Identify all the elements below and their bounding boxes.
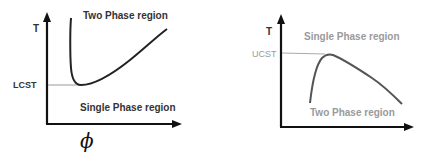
lcst-lower-region-label: Single Phase region	[80, 103, 176, 113]
ucst-upper-region-label: Single Phase region	[304, 32, 400, 42]
ucst-curve	[310, 54, 402, 104]
ucst-y-axis-label: T	[266, 27, 272, 37]
ucst-critical-label: UCST	[252, 50, 277, 59]
lcst-x-axis-arrow-icon	[172, 120, 182, 128]
ucst-guide-line	[282, 53, 325, 54]
lcst-curve	[70, 18, 167, 85]
phase-diagrams-canvas	[0, 0, 425, 161]
ucst-y-axis-arrow-icon	[277, 14, 285, 24]
lcst-x-axis-label: ϕ	[80, 131, 94, 151]
ucst-x-axis-arrow-icon	[404, 123, 414, 131]
lcst-upper-region-label: Two Phase region	[83, 11, 168, 21]
lcst-y-axis-arrow-icon	[43, 12, 51, 22]
ucst-lower-region-label: Two Phase region	[310, 108, 395, 118]
lcst-critical-label: LCST	[13, 81, 37, 90]
lcst-y-axis-label: T	[33, 24, 39, 34]
